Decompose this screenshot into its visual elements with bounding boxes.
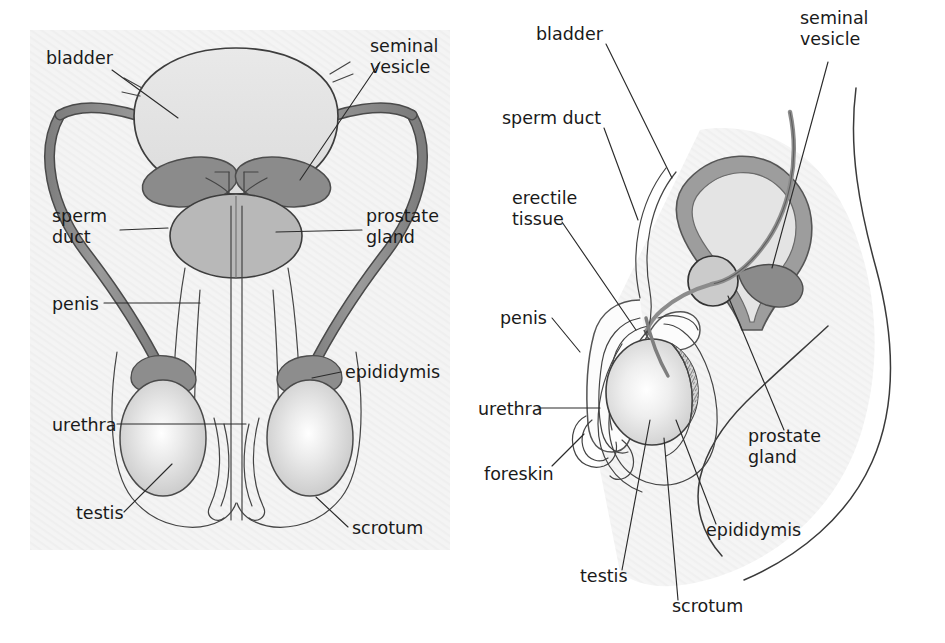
label-scrotum-right: scrotum bbox=[672, 596, 743, 616]
label-penis-left: penis bbox=[52, 294, 99, 314]
label-foreskin-right: foreskin bbox=[484, 464, 554, 484]
label-penis-right: penis bbox=[500, 308, 547, 328]
label-scrotum-left: scrotum bbox=[352, 518, 423, 538]
label-sperm-duct-right: sperm duct bbox=[502, 108, 601, 128]
label-testis-left: testis bbox=[76, 503, 124, 523]
front-view-diagram: bladder seminal vesicle sperm duct prost… bbox=[30, 30, 450, 550]
label-testis-right: testis bbox=[580, 566, 628, 586]
prostate-gland-shape bbox=[170, 194, 302, 278]
testis-right bbox=[267, 380, 353, 496]
label-epididymis-left: epididymis bbox=[345, 362, 440, 382]
label-bladder-left: bladder bbox=[46, 48, 114, 68]
label-urethra-left: urethra bbox=[52, 415, 117, 435]
prostate-gland-shape-side bbox=[688, 256, 738, 306]
diagram-stage: bladder seminal vesicle sperm duct prost… bbox=[0, 0, 945, 643]
label-epididymis-right: epididymis bbox=[706, 520, 801, 540]
label-bladder-right: bladder bbox=[536, 24, 604, 44]
label-urethra-right: urethra bbox=[478, 399, 543, 419]
testis-left bbox=[120, 380, 206, 496]
male-reproductive-system-figure: bladder seminal vesicle sperm duct prost… bbox=[0, 0, 945, 643]
